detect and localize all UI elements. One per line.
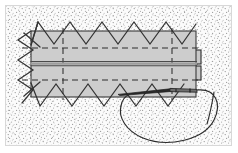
sewing-diagram-figure: Herringbone catch-stitch sewing diagram … <box>0 0 238 153</box>
margin-top <box>0 0 238 5</box>
margin-bottom <box>0 146 238 153</box>
margin-right <box>232 0 238 153</box>
needle-shank <box>170 88 197 92</box>
margin-left <box>0 0 5 153</box>
diagram-canvas <box>0 0 238 153</box>
